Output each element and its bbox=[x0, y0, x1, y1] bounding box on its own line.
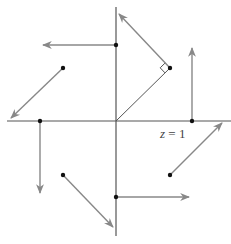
vector-base-point bbox=[61, 66, 65, 70]
vector-base-point bbox=[190, 119, 194, 123]
right-angle-marker bbox=[160, 63, 165, 73]
vector-base-point bbox=[114, 43, 118, 47]
vector-base-point bbox=[168, 66, 172, 70]
label-equation: = 1 bbox=[165, 126, 185, 141]
vector-base-point bbox=[168, 173, 172, 177]
vector-arrow bbox=[119, 14, 170, 68]
vector-arrow bbox=[11, 68, 63, 118]
vector-field-diagram bbox=[0, 0, 231, 244]
vector-arrow bbox=[63, 175, 113, 227]
radius-line bbox=[116, 63, 170, 121]
vector-base-point bbox=[38, 119, 42, 123]
position-vector-line bbox=[116, 68, 170, 121]
z-equals-one-label: z = 1 bbox=[160, 126, 185, 142]
vector-base-point bbox=[114, 195, 118, 199]
vector-base-point bbox=[61, 173, 65, 177]
